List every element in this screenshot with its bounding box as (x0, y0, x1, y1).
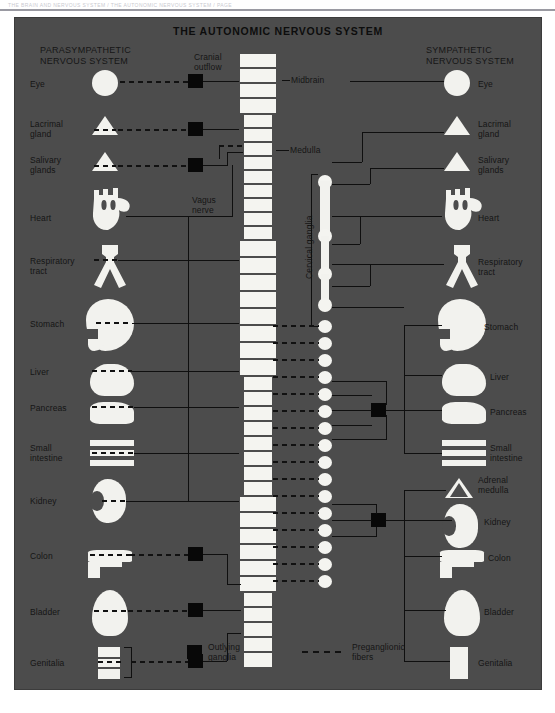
page-header-rule: THE BRAIN AND NERVOUS SYSTEM / THE AUTON… (0, 6, 555, 11)
cranial-outflow-label: Cranial outflow (194, 52, 222, 72)
respiratory-tract-icon (442, 245, 482, 289)
left-label-eye: Eye (30, 79, 45, 89)
right-label-adrenal: Adrenal medulla (478, 475, 508, 495)
header-divider (0, 9, 555, 11)
outlying-ganglion (188, 603, 203, 617)
legend-fibers-swatch (302, 651, 346, 653)
liver-icon (442, 364, 486, 396)
outlying-ganglion (371, 403, 386, 417)
salivary-triangle-icon (92, 152, 118, 171)
left-label-kidney: Kidney (30, 496, 57, 506)
outlying-ganglion (188, 547, 203, 561)
lacrimal-triangle-icon (92, 116, 118, 135)
legend-ganglia-swatch (187, 645, 202, 659)
right-label-colon: Colon (488, 553, 511, 563)
liver-icon (90, 364, 134, 396)
left-label-colon: Colon (30, 551, 53, 561)
right-label-eye: Eye (478, 79, 493, 89)
heart-icon (440, 185, 484, 231)
vagus-nerve-label: Vagus nerve (192, 195, 216, 215)
kidney-icon (444, 504, 478, 548)
left-label-heart: Heart (30, 213, 51, 223)
cervical-ganglia-label: Cervical ganglia (304, 215, 314, 279)
salivary-triangle-icon (444, 152, 470, 171)
left-label-stomach: Stomach (30, 319, 64, 329)
right-label-pancreas: Pancreas (490, 407, 527, 417)
left-label-small-intestine: Small intestine (30, 443, 63, 463)
right-label-kidney: Kidney (484, 517, 511, 527)
right-label-salivary: Salivary glands (478, 155, 509, 175)
diagram-page: THE BRAIN AND NERVOUS SYSTEM / THE AUTON… (0, 0, 555, 713)
page-title: THE AUTONOMIC NERVOUS SYSTEM (14, 25, 542, 37)
medulla-label: Medulla (290, 145, 320, 155)
legend-ganglia-label: Outlying ganglia (208, 642, 240, 662)
legend-fibers-label: Preganglionic fibers (352, 642, 405, 662)
left-label-respiratory: Respiratory tract (30, 256, 75, 276)
right-label-bladder: Bladder (484, 607, 514, 617)
bladder-icon (444, 590, 480, 636)
pancreas-icon (442, 402, 486, 424)
left-label-lacrimal: Lacrimal gland (30, 119, 63, 139)
outlying-ganglion (188, 158, 203, 172)
genitalia-icon (450, 647, 468, 679)
respiratory-tract-icon (90, 245, 130, 289)
bladder-icon (92, 590, 128, 636)
right-label-lacrimal: Lacrimal gland (478, 119, 511, 139)
left-label-genitalia: Genitalia (30, 658, 64, 668)
right-label-respiratory: Respiratory tract (478, 257, 523, 277)
eye-circle-icon (444, 70, 470, 96)
left-label-salivary: Salivary glands (30, 155, 61, 175)
adrenal-medulla-icon (444, 477, 474, 503)
outlying-ganglion (188, 74, 203, 88)
midbrain-label: Midbrain (291, 75, 324, 85)
left-label-pancreas: Pancreas (30, 403, 67, 413)
outlying-ganglion (371, 513, 386, 527)
lacrimal-triangle-icon (444, 116, 470, 135)
left-label-liver: Liver (30, 367, 49, 377)
right-label-genitalia: Genitalia (478, 658, 512, 668)
right-label-heart: Heart (478, 213, 499, 223)
diagram-panel: THE AUTONOMIC NERVOUS SYSTEM PARASYMPATH… (14, 17, 542, 690)
outlying-ganglion (188, 122, 203, 136)
faint-running-head: THE BRAIN AND NERVOUS SYSTEM / THE AUTON… (8, 2, 232, 8)
eye-circle-icon (92, 70, 118, 96)
right-column-heading: SYMPATHETIC NERVOUS SYSTEM (426, 45, 514, 66)
right-label-small-intestine: Small intestine (490, 443, 523, 463)
left-label-bladder: Bladder (30, 607, 60, 617)
right-label-stomach: Stomach (484, 322, 518, 332)
heart-icon (88, 185, 132, 231)
right-label-liver: Liver (490, 372, 509, 382)
